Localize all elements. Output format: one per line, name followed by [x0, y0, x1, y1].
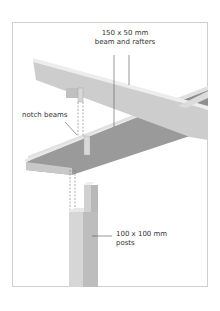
post [69, 182, 98, 287]
beam-dimension-text: 150 x 50 mm [92, 29, 158, 38]
beam-description-text: beam and rafters [92, 38, 158, 47]
posts-dimension-text: 100 x 100 mm [116, 230, 167, 239]
pergola-illustration [0, 0, 220, 311]
notch-tab-lower [84, 136, 90, 155]
beam-rafters-label: 150 x 50 mm beam and rafters [92, 29, 158, 46]
posts-description-text: posts [116, 239, 167, 248]
notch-beams-label: notch beams [22, 111, 67, 120]
posts-label: 100 x 100 mm posts [116, 230, 167, 247]
